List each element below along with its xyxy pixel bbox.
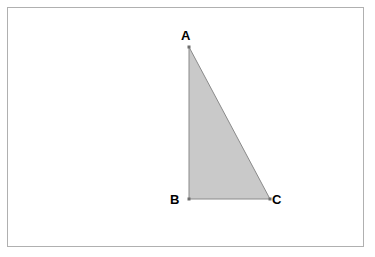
vertex-label-a: A [181, 29, 190, 42]
vertex-label-c: C [272, 193, 281, 206]
vertex-marker-b [188, 198, 191, 201]
triangle-shape [189, 47, 270, 199]
vertex-marker-a [188, 46, 191, 49]
vertex-label-b: B [170, 193, 179, 206]
figure-canvas: A B C [0, 0, 375, 257]
